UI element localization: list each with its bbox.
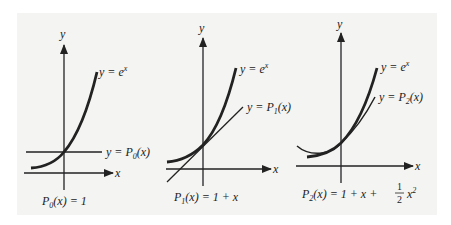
taylor-polynomials-figure: y x y = ex y = P0(x) P0(x) = 1 y x y = e…: [0, 0, 451, 225]
y-axis-label: y: [59, 27, 66, 41]
approx-label: y = P1(x): [246, 100, 291, 116]
caption-tail: x2: [406, 186, 416, 201]
approx-label: y = P0(x): [105, 145, 150, 161]
caption: P2(x) = 1 + x +: [301, 187, 377, 203]
exp-label: y = ex: [380, 59, 410, 74]
plot-p0: y x y = ex y = P0(x) P0(x) = 1: [24, 27, 150, 210]
plot-p1: y x y = ex y = P1(x) P1(x) = 1 + x: [166, 21, 291, 206]
p1-line: [167, 107, 243, 182]
x-axis-label: x: [414, 159, 421, 173]
approx-label: y = P2(x): [378, 90, 423, 106]
y-axis-label: y: [336, 17, 343, 31]
plot-p2: y x y = ex y = P2(x) P2(x) = 1 + x + 1 2…: [296, 17, 423, 205]
exp-label: y = ex: [239, 61, 269, 76]
y-axis-label: y: [198, 21, 205, 35]
caption: P0(x) = 1: [41, 194, 87, 210]
caption-fraction-denominator: 2: [397, 194, 402, 205]
x-axis-label: x: [114, 166, 121, 180]
caption: P1(x) = 1 + x: [173, 190, 239, 206]
x-axis-label: x: [272, 162, 279, 176]
exp-label: y = ex: [98, 64, 128, 79]
caption-fraction-numerator: 1: [397, 181, 402, 192]
